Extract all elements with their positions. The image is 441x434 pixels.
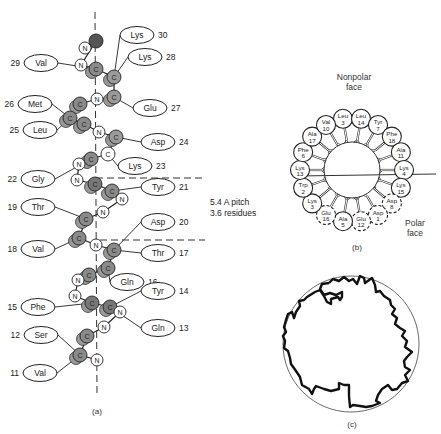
atom-label: C: [81, 121, 86, 128]
residue-name: Lys: [131, 30, 144, 40]
wheel-residue-number: 18: [388, 137, 395, 144]
wheel-residue-leu-3: Leu3: [333, 109, 352, 128]
residue-leu-25: Leu25: [10, 122, 57, 139]
residue-name: Val: [34, 368, 46, 378]
atom-label: C: [111, 94, 116, 101]
residue-tyr-21: Tyr21: [141, 179, 189, 196]
atom-label: N: [78, 62, 83, 69]
residue-number: 20: [179, 217, 189, 227]
atom-label: C: [89, 300, 94, 307]
nitrogen-atom: N: [91, 93, 103, 105]
residue-name: Glu: [143, 103, 157, 113]
residue-number: 14: [179, 286, 189, 296]
residue-number: 18: [8, 244, 18, 254]
residue-number: 30: [158, 30, 168, 40]
atom-label: N: [82, 45, 87, 52]
atom-label: C: [84, 333, 89, 340]
residue-labels: Lys30Val29Lys28Met26Glu27Leu25Asp24Lys23…: [5, 27, 189, 382]
carbon-atom: C: [76, 212, 94, 229]
carbon-atom: C: [85, 177, 103, 194]
atom-label: C: [109, 188, 114, 195]
wheel-residue-number: 10: [323, 125, 330, 132]
backbone-atoms: NNCCCNCCCNCCCNNCCNNCCNCCCNNCCNNCCN: [60, 34, 129, 366]
residue-name: Val: [32, 244, 44, 254]
carbon-atom: C: [106, 130, 124, 147]
residue-phe-15: Phe15: [8, 299, 55, 316]
nitrogen-atom: N: [75, 59, 87, 71]
carbon-atom: C: [104, 90, 122, 107]
nitrogen-atom: N: [97, 206, 109, 218]
nitrogen-atom: N: [73, 158, 85, 170]
wheel-residue-asp-1: Asp1: [369, 206, 388, 225]
panel-a-helix-diagram: NNCCCNCCCNCCCNNCCNNCCNCCCNNCCNNCCN Lys30…: [5, 12, 257, 416]
residue-number: 24: [179, 137, 189, 147]
residue-lys-23: Lys23: [118, 158, 166, 175]
atom-label: N: [76, 161, 81, 168]
wheel-residue-lys-13: Lys13: [291, 161, 310, 180]
atom-label: N: [74, 177, 79, 184]
nonpolar-face-label-line2: face: [346, 82, 362, 92]
atom-label: N: [93, 242, 98, 249]
residue-thr-19: Thr19: [8, 199, 55, 216]
wheel-residue-number: 13: [297, 170, 304, 177]
residue-asp-20: Asp20: [141, 214, 189, 231]
atom-label: C: [67, 115, 72, 122]
residue-gln-13: Gln13: [141, 320, 189, 337]
residue-name: Ser: [34, 330, 47, 340]
atom-label: C: [93, 66, 98, 73]
carbon-atom: C: [104, 70, 122, 87]
residue-name: Tyr: [152, 182, 164, 192]
wheel-residue-ala-5: Ala5: [333, 212, 352, 231]
atom-label: N: [72, 293, 77, 300]
residue-name: Val: [35, 58, 47, 68]
residue-lys-30: Lys30: [120, 27, 168, 44]
residue-asp-24: Asp24: [141, 134, 189, 151]
wheel-residue-number: 3: [310, 203, 314, 210]
wheel-center-circle: [324, 142, 380, 198]
residue-number: 26: [5, 99, 15, 109]
residue-number: 12: [11, 330, 21, 340]
wheel-residue-number: 6: [301, 152, 305, 159]
residue-glu-27: Glu27: [133, 100, 181, 117]
nitrogen-atom: N: [93, 126, 105, 138]
atom-label: C: [83, 216, 88, 223]
wheel-residue-number: 7: [376, 125, 380, 132]
wheel-residue-number: 14: [358, 119, 365, 126]
wheel-residue-val-10: Val10: [317, 115, 336, 134]
residue-name: Asp: [151, 217, 166, 227]
nitrogen-atom: N: [69, 290, 81, 302]
residue-name: Gly: [32, 174, 46, 184]
atom-label: N: [101, 324, 106, 331]
wheel-residue-number: 2: [301, 188, 305, 195]
wheel-residue-number: 1: [376, 215, 380, 222]
residue-lys-28: Lys28: [128, 49, 176, 66]
atom-label: C: [88, 156, 93, 163]
atom-label: C: [105, 151, 110, 158]
residue-number: 22: [8, 174, 18, 184]
wheel-residue-number: 17: [309, 137, 316, 144]
residue-number: 23: [156, 161, 166, 171]
wheel-residue-leu-14: Leu14: [352, 109, 371, 128]
residue-number: 27: [171, 103, 181, 113]
residue-name: Met: [28, 99, 43, 109]
atom-label: C: [77, 352, 82, 359]
residue-name: Lys: [139, 52, 152, 62]
carbon-atom: C: [98, 261, 116, 278]
residue-number: 11: [10, 368, 19, 378]
wheel-residue-number: 8: [390, 203, 394, 210]
polar-face-label-line2: face: [407, 228, 423, 238]
wheel-residue-number: 5: [341, 221, 345, 228]
residue-val-29: Val29: [11, 55, 58, 72]
residue-gly-22: Gly22: [8, 171, 55, 188]
wheel-residue-trp-2: Trp2: [294, 178, 313, 197]
residue-val-18: Val18: [8, 241, 55, 258]
atom-label: C: [77, 101, 82, 108]
atom-label: C: [86, 272, 91, 279]
residue-number: 13: [179, 323, 189, 333]
residue-number: 25: [10, 125, 20, 135]
carbon-atom: [89, 34, 103, 48]
pitch-note-line1: 5.4 A pitch: [210, 197, 249, 207]
carbon-atom: C: [86, 62, 104, 79]
carbon-atom: C: [104, 243, 122, 260]
atom-label: C: [111, 74, 116, 81]
